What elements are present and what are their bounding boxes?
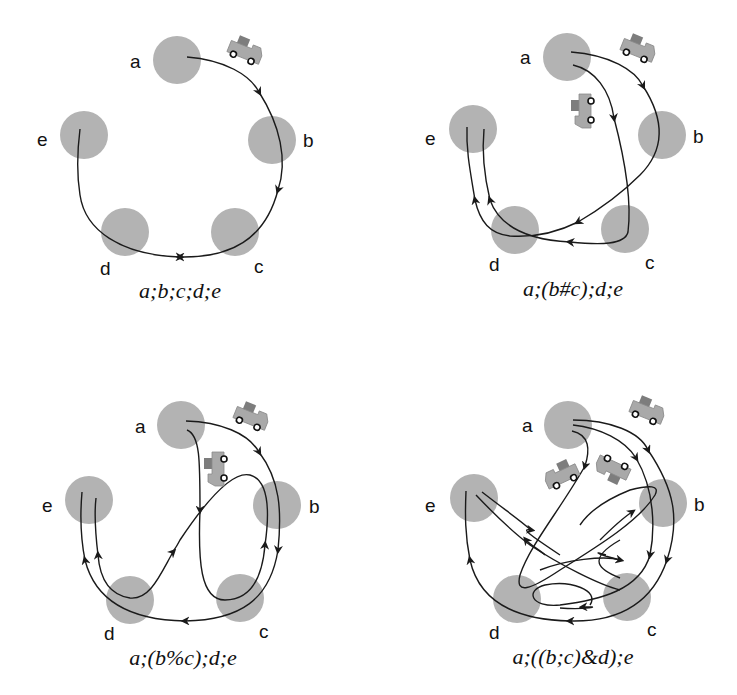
node-b: [638, 111, 686, 159]
label-a: a: [520, 47, 531, 68]
truck-icon: [628, 393, 668, 427]
label-e: e: [37, 129, 48, 150]
truck-icon: [232, 399, 272, 433]
truck-icon: [619, 31, 659, 65]
label-a: a: [135, 416, 146, 437]
label-c: c: [645, 252, 655, 273]
label-c: c: [254, 256, 264, 277]
panel-interleaving: a b c d e a;(b%c);d;e: [42, 399, 320, 670]
caption-choice: a;(b#c);d;e: [523, 276, 623, 301]
node-a: [157, 401, 205, 449]
node-c: [601, 205, 649, 253]
node-b: [253, 481, 301, 529]
label-b: b: [303, 130, 314, 151]
node-d: [491, 206, 539, 254]
label-b: b: [693, 126, 704, 147]
label-b: b: [309, 496, 320, 517]
caption-parallel: a;((b;c)&d);e: [513, 644, 634, 669]
node-b: [248, 116, 296, 164]
node-e: [60, 111, 108, 159]
label-e: e: [425, 495, 436, 516]
node-e: [449, 105, 497, 153]
label-e: e: [42, 495, 53, 516]
label-b: b: [694, 494, 705, 515]
node-e: [65, 476, 113, 524]
panel-sequential: a b c d e a;b;c;d;e: [37, 33, 314, 303]
caption-sequential: a;b;c;d;e: [139, 278, 221, 303]
label-d: d: [104, 623, 115, 644]
caption-interleaving: a;(b%c);d;e: [129, 645, 237, 670]
label-c: c: [259, 621, 269, 642]
node-a: [543, 33, 591, 81]
node-c: [211, 208, 259, 256]
label-a: a: [130, 51, 141, 72]
truck-icon: [204, 452, 227, 486]
node-a: [544, 401, 592, 449]
truck-icon: [541, 457, 582, 492]
label-a: a: [522, 415, 533, 436]
label-d: d: [489, 622, 500, 643]
panel-parallel: a b c d e: [425, 393, 705, 669]
panel-choice: a b c d e a;(b#c);d;e: [425, 31, 704, 301]
label-e: e: [425, 128, 436, 149]
node-d: [101, 208, 149, 256]
label-d: d: [100, 258, 111, 279]
label-d: d: [489, 254, 500, 275]
truck-icon: [571, 94, 594, 128]
process-diagram: a b c d e a;b;c;d;e a b c d e: [0, 0, 737, 695]
truck-icon: [592, 452, 633, 487]
truck-icon: [226, 33, 266, 67]
node-a: [153, 36, 201, 84]
label-c: c: [647, 619, 657, 640]
